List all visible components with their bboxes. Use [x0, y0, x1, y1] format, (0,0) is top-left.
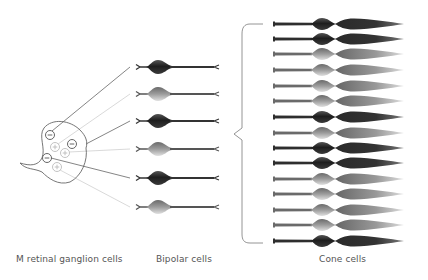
- plus-symbol-icon: [51, 143, 60, 152]
- cone-cell: [273, 157, 404, 169]
- connector-line: [51, 158, 130, 178]
- cone-cell: [273, 48, 404, 60]
- connector-line: [86, 121, 130, 144]
- bipolar-cell: [136, 171, 219, 185]
- cone-cell: [273, 173, 404, 185]
- plus-symbol-icon: [61, 149, 70, 158]
- receptive-field-symbols: [43, 131, 77, 172]
- cone-cell: [273, 127, 404, 139]
- cone-cell: [273, 142, 404, 154]
- cone-cell: [273, 80, 404, 92]
- cone-cell: [273, 18, 404, 30]
- cone-cell: [273, 219, 404, 231]
- connector-line: [58, 94, 130, 144]
- cone-cell: [273, 188, 404, 200]
- cone-cell: [273, 33, 404, 45]
- label-ganglion-cells: M retinal ganglion cells: [16, 254, 123, 264]
- bipolar-cells: [136, 60, 219, 214]
- label-bipolar-cells: Bipolar cells: [156, 254, 212, 264]
- bipolar-cell: [136, 87, 219, 101]
- label-cone-cells: Cone cells: [319, 254, 366, 264]
- cone-cell: [273, 235, 404, 247]
- cone-cell: [273, 95, 404, 107]
- minus-symbol-icon: [43, 154, 52, 163]
- cone-cells: [273, 18, 404, 247]
- cone-cell: [273, 64, 404, 76]
- brace-icon: [234, 24, 263, 243]
- bipolar-cell: [136, 60, 219, 74]
- minus-symbol-icon: [68, 140, 77, 149]
- minus-symbol-icon: [46, 131, 55, 140]
- plus-symbol-icon: [53, 163, 62, 172]
- cone-cell: [273, 111, 404, 123]
- bipolar-cell: [136, 200, 219, 214]
- retina-circuit-diagram: [0, 0, 428, 280]
- connector-line: [69, 149, 130, 152]
- bipolar-cell: [136, 142, 219, 156]
- cone-cell: [273, 204, 404, 216]
- bipolar-cell: [136, 114, 219, 128]
- connector-lines: [51, 67, 130, 207]
